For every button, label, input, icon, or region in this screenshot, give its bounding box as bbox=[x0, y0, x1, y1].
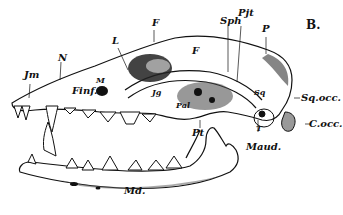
label-t: T bbox=[256, 124, 262, 132]
mental-foramen bbox=[96, 187, 101, 190]
label-f-inner: F bbox=[192, 46, 199, 56]
mental-foramen bbox=[70, 182, 78, 186]
label-jm: Jm bbox=[24, 70, 39, 80]
orbit bbox=[128, 54, 172, 82]
occipital-condyle bbox=[282, 112, 295, 131]
label-jg: Jg bbox=[152, 88, 161, 96]
label-m: M bbox=[96, 76, 105, 84]
label-c-occ: C.occ. bbox=[309, 119, 343, 129]
label-md: Md. bbox=[124, 186, 146, 196]
label-sq: Sq bbox=[254, 88, 265, 96]
label-maud: Maud. bbox=[246, 142, 281, 152]
label-f-top: F bbox=[152, 18, 159, 28]
label-sq-occ: Sq.occ. bbox=[301, 93, 341, 103]
leader-lines bbox=[29, 26, 310, 132]
label-finf: Finf. bbox=[72, 86, 98, 96]
label-p: P bbox=[262, 24, 270, 34]
label-pt: Pt bbox=[192, 128, 204, 138]
label-pjt: Pjt bbox=[238, 8, 254, 18]
label-l: L bbox=[112, 36, 119, 46]
cranium-shading bbox=[262, 54, 288, 86]
label-n: N bbox=[58, 53, 67, 63]
skull-illustration bbox=[0, 0, 343, 215]
label-pal: Pal bbox=[176, 101, 190, 109]
panel-label: B. bbox=[306, 19, 320, 31]
